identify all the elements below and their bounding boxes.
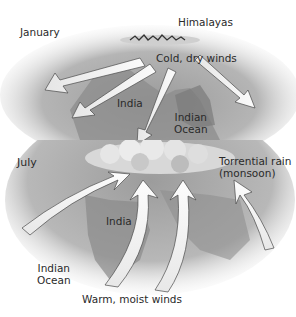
monsoon-diagram: January Himalayas Cold, dry winds India … <box>0 0 296 317</box>
label-torrential-rain: Torrential rain (monsoon) <box>219 155 291 179</box>
label-indian-ocean-january: Indian Ocean <box>174 111 208 135</box>
label-warm-moist-winds: Warm, moist winds <box>82 293 182 305</box>
himalaya-mountains <box>120 35 200 45</box>
label-torrential-rain-line2: (monsoon) <box>219 167 275 179</box>
july-panel: July Torrential rain (monsoon) India Ind… <box>0 140 296 317</box>
label-indian-ocean-july: Indian Ocean <box>37 262 71 286</box>
label-himalayas: Himalayas <box>178 16 233 28</box>
label-indian-ocean-july-line2: Ocean <box>37 274 71 286</box>
label-india-january: India <box>117 97 143 109</box>
label-torrential-rain-line1: Torrential rain <box>219 155 291 167</box>
label-india-july: India <box>106 215 132 227</box>
label-indian-ocean-july-line1: Indian <box>38 262 70 274</box>
label-cold-dry-winds: Cold, dry winds <box>156 52 237 64</box>
label-indian-ocean-january-line2: Ocean <box>174 123 208 135</box>
january-illustration <box>0 0 296 150</box>
label-january: January <box>20 26 60 38</box>
label-july: July <box>17 157 37 169</box>
label-indian-ocean-january-line1: Indian <box>175 111 207 123</box>
january-panel: January Himalayas Cold, dry winds India … <box>0 0 296 150</box>
